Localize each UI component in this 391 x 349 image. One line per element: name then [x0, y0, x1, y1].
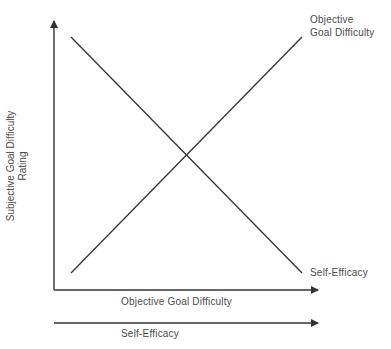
- objective-line-label-line2: Goal Difficulty: [310, 27, 375, 39]
- y-axis-label: Subjective Goal Difficulty Rating: [5, 101, 29, 231]
- y-axis-label-line1: Subjective Goal Difficulty: [5, 101, 17, 231]
- y-axis-label-line2: Rating: [17, 101, 29, 231]
- objective-line-label-line1: Objective: [310, 14, 354, 26]
- secondary-axis-label: Self-Efficacy: [121, 328, 179, 340]
- x-axis-label: Objective Goal Difficulty: [121, 296, 232, 308]
- self-efficacy-line-label: Self-Efficacy: [310, 267, 368, 279]
